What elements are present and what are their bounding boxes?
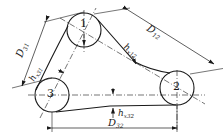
belt-segment-3-2 xyxy=(56,105,176,112)
pulley-1-label: 1 xyxy=(80,17,87,30)
svg-text:hx12: hx12 xyxy=(121,41,141,59)
belt-segment-1-2 xyxy=(98,20,170,73)
label-hx32: hx32 xyxy=(118,108,134,119)
label-D31: D31 xyxy=(13,40,30,60)
arrow-hx31 xyxy=(58,70,64,73)
pulley-2-label: 2 xyxy=(173,80,180,93)
pulley-3-label: 3 xyxy=(47,87,54,100)
label-D12: D12 xyxy=(144,22,165,41)
svg-text:D31: D31 xyxy=(13,40,30,60)
dim-D12 xyxy=(128,10,214,64)
svg-text:D12: D12 xyxy=(144,22,165,41)
label-hx12: hx12 xyxy=(121,41,141,59)
label-D32: D32 xyxy=(107,117,124,129)
belt-drive-diagram: 1 2 3 D31 hx31 D12 hx12 hx32 D32 xyxy=(0,0,223,138)
centerline-1-2 xyxy=(60,18,205,104)
